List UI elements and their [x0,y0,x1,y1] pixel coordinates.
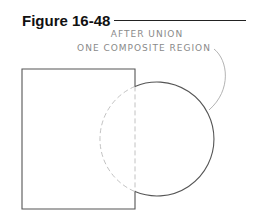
union-diagram: AFTER UNION ONE COMPOSITE REGION [0,0,254,220]
circle-outline [135,82,214,196]
annotation-after-union: AFTER UNION [111,29,183,39]
hidden-circle-arc [100,86,135,191]
annotation-composite-region: ONE COMPOSITE REGION [77,43,211,53]
leader-line [209,49,225,110]
square-outline [22,69,135,209]
